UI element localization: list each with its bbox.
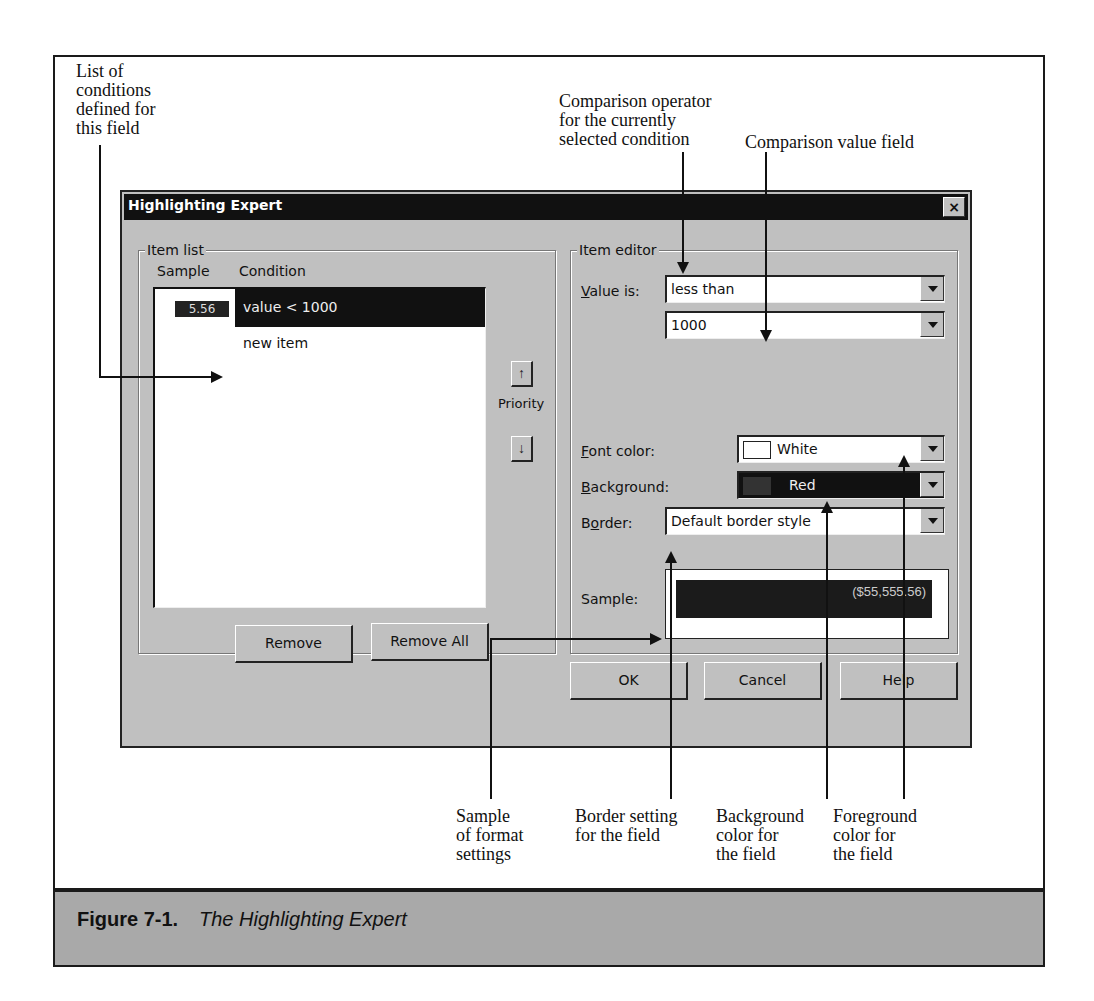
white-swatch (743, 441, 771, 459)
leader-line (490, 639, 492, 799)
border-value: Default border style (671, 513, 811, 529)
callout-comparison-operator: Comparison operator for the currently se… (559, 92, 711, 149)
chevron-down-icon[interactable] (920, 313, 944, 337)
figure-caption: Figure 7-1. The Highlighting Expert (53, 888, 1045, 967)
comparison-value-dropdown[interactable]: 1000 (665, 311, 945, 339)
arrow-up-icon: ↑ (518, 365, 525, 381)
list-item-selected[interactable]: value < 1000 (235, 289, 485, 327)
operator-dropdown[interactable]: less than (665, 275, 945, 303)
cancel-button[interactable]: Cancel (704, 662, 822, 700)
arrow-down-icon: ↓ (518, 440, 525, 456)
remove-button[interactable]: Remove (235, 625, 353, 663)
callout-list-of-conditions: List of conditions defined for this fiel… (76, 62, 155, 138)
background-color-dropdown[interactable]: Red (737, 471, 945, 499)
font-color-value: White (777, 441, 818, 457)
highlighting-expert-dialog: Highlighting Expert × Item list Sample C… (120, 190, 972, 748)
comparison-value: 1000 (671, 317, 707, 333)
condition-listbox[interactable]: value < 1000 5.56 new item (153, 287, 486, 608)
chevron-down-icon[interactable] (920, 473, 944, 497)
leader-line (903, 467, 905, 799)
dialog-title: Highlighting Expert (128, 197, 282, 213)
chevron-down-icon[interactable] (920, 509, 944, 533)
callout-background-color: Background color for the field (716, 807, 804, 864)
font-color-dropdown[interactable]: White (737, 435, 945, 463)
callout-border-setting: Border setting for the field (575, 807, 677, 845)
sample-value: ($55,555.56) (676, 580, 932, 618)
value-is-label: Value is: (581, 283, 640, 299)
background-value: Red (789, 477, 816, 493)
leader-line (765, 152, 767, 330)
sample-preview: ($55,555.56) (665, 569, 949, 639)
leader-line (490, 638, 650, 640)
column-header-sample: Sample (157, 263, 210, 279)
border-label: Border: (581, 515, 632, 531)
condition-text: new item (243, 335, 308, 351)
arrow-up-icon (821, 501, 833, 513)
leader-line (682, 152, 684, 262)
leader-line (670, 563, 672, 799)
close-button[interactable]: × (943, 197, 965, 217)
list-item[interactable]: new item (235, 327, 485, 357)
item-editor-label: Item editor (577, 242, 659, 258)
arrow-right-icon (650, 633, 662, 645)
column-header-condition: Condition (239, 263, 306, 279)
callout-comparison-value: Comparison value field (745, 133, 914, 152)
arrow-up-icon (665, 551, 677, 563)
arrow-right-icon (211, 371, 223, 383)
callout-foreground-color: Foreground color for the field (833, 807, 917, 864)
background-label: Background: (581, 479, 669, 495)
leader-line (826, 513, 828, 799)
title-bar[interactable]: Highlighting Expert × (124, 194, 968, 220)
condition-text: value < 1000 (243, 299, 338, 315)
remove-all-button[interactable]: Remove All (371, 623, 489, 661)
font-color-label: Font color: (581, 443, 655, 459)
red-swatch (743, 477, 771, 495)
priority-up-button[interactable]: ↑ (511, 361, 533, 387)
sample-label: Sample: (581, 591, 638, 607)
item-list-group: Item list Sample Condition value < 1000 … (138, 250, 556, 654)
figure-number: Figure 7-1. (77, 908, 178, 931)
leader-line (99, 376, 211, 378)
callout-sample-format: Sample of format settings (456, 807, 523, 864)
item-list-label: Item list (145, 242, 206, 258)
item-editor-group: Item editor Value is: less than 1000 Fon… (570, 250, 958, 654)
help-button[interactable]: Help (840, 662, 958, 700)
arrow-up-icon (898, 455, 910, 467)
figure-title: The Highlighting Expert (199, 908, 407, 931)
chevron-down-icon[interactable] (920, 437, 944, 461)
operator-value: less than (671, 281, 734, 297)
sample-chip: 5.56 (175, 301, 229, 317)
chevron-down-icon[interactable] (920, 277, 944, 301)
arrow-down-icon (760, 330, 772, 342)
leader-line (99, 145, 101, 377)
arrow-down-icon (677, 262, 689, 274)
priority-label: Priority (498, 396, 544, 411)
priority-down-button[interactable]: ↓ (511, 436, 533, 462)
